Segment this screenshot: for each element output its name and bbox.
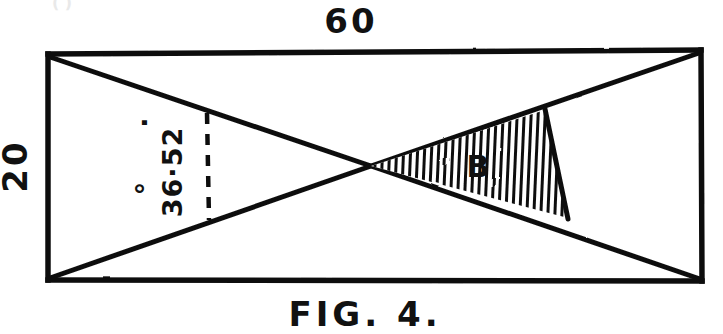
cutoff-ghost-mark: ( ) — [52, 0, 72, 12]
region-label-b: B — [467, 149, 490, 184]
degree-symbol: ° — [130, 181, 161, 196]
top-dimension-label: 60 — [324, 1, 377, 41]
angle-value-label: 36·52 — [157, 127, 188, 217]
figure-drawing: 60 20 36·52 ° · B FIG. 4. ( ) — [0, 0, 723, 334]
figure-container: 60 20 36·52 ° · B FIG. 4. ( ) — [0, 0, 723, 334]
angle-tick-mark: · — [129, 116, 160, 127]
dashed-chord — [207, 113, 209, 220]
left-dimension-label: 20 — [0, 139, 35, 192]
figure-caption: FIG. 4. — [288, 294, 441, 334]
